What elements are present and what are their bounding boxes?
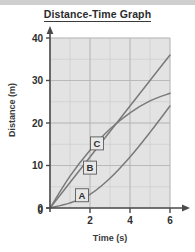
y-tick-label: 40 xyxy=(32,33,44,44)
y-axis-arrow-icon xyxy=(47,26,54,34)
plot-svg: 403020100 246 ABC 0 xyxy=(0,0,195,252)
curve-label-c: C xyxy=(94,138,101,149)
x-tick-label: 2 xyxy=(87,215,93,226)
y-tick-label: 20 xyxy=(32,118,44,129)
x-tick-label: 4 xyxy=(127,215,133,226)
distance-time-graph-figure: Distance-Time Graph Distance (m) Time (s… xyxy=(0,0,195,252)
y-tick-label: 30 xyxy=(32,75,44,86)
curve-label-b: B xyxy=(87,162,94,173)
y-tick-labels: 403020100 xyxy=(32,33,44,214)
x-tick-label: 6 xyxy=(167,215,173,226)
y-tick-label: 10 xyxy=(32,160,44,171)
origin-label: 0 xyxy=(37,205,43,216)
curve-label-a: A xyxy=(79,190,86,201)
x-axis-arrow-icon xyxy=(182,205,190,212)
x-tick-labels: 246 xyxy=(87,215,173,226)
